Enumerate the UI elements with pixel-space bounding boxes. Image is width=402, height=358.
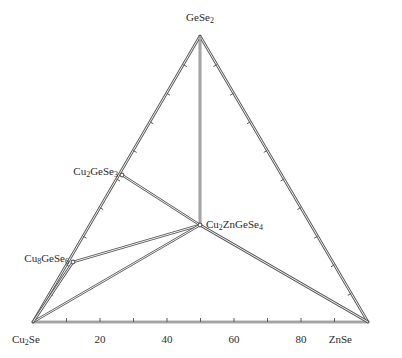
- tie-line-znse-cu2zngese4-inner: [200, 225, 368, 322]
- label-cu2zngese4: Cu2ZnGeSe4: [206, 219, 263, 230]
- tie-line-cu2se-cu2zngese4-inner: [33, 225, 200, 322]
- phase-point-cu2zngese4: [198, 223, 202, 227]
- phase-diagram-canvas: [0, 0, 402, 358]
- tie-line-cu2se-cu8gese6-inner: [33, 262, 73, 322]
- bottom-tick-label-60: 60: [214, 334, 254, 345]
- tie-line-cu8gese6-cu2zngese4-inner: [73, 225, 200, 262]
- phase-point-nodes: [71, 173, 202, 264]
- phase-point-cu8gese6: [71, 260, 75, 264]
- tie-lines-group: [33, 36, 368, 322]
- bottom-tick-label-80: 80: [281, 334, 321, 345]
- tie-line-cu2gese3-cu2zngese4-inner: [122, 175, 200, 225]
- label-cu8gese6: Cu8GeSe6: [24, 253, 69, 264]
- bottom-tick-label-20: 20: [80, 334, 120, 345]
- label-cu2se: Cu2Se: [12, 334, 40, 345]
- label-gese2: GeSe2: [0, 12, 401, 23]
- ternary-phase-diagram-figure: GeSe2 Cu2Se ZnSe Cu2GeSe3 Cu8GeSe6 Cu2Zn…: [0, 0, 402, 358]
- label-znse: ZnSe: [329, 334, 352, 345]
- label-cu2gese3: Cu2GeSe3: [73, 166, 118, 177]
- bottom-tick-label-40: 40: [147, 334, 187, 345]
- phase-point-cu2gese3: [120, 173, 124, 177]
